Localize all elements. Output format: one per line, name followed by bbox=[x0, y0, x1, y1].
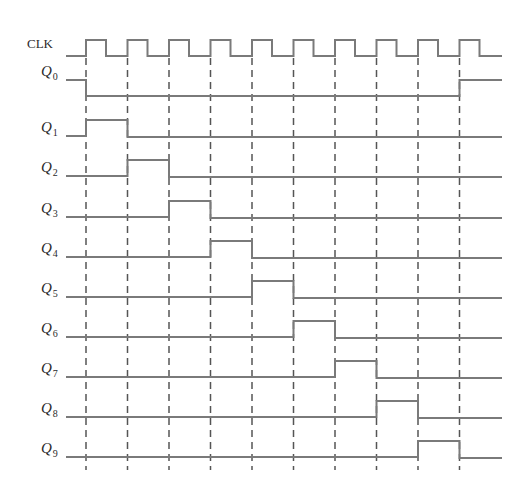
signal-labels: CLKQ0Q1Q2Q3Q4Q5Q6Q7Q8Q9 bbox=[27, 36, 58, 459]
q1-label: Q1 bbox=[41, 119, 58, 138]
clk-waveform bbox=[66, 40, 502, 56]
timing-diagram: CLKQ0Q1Q2Q3Q4Q5Q6Q7Q8Q9 bbox=[0, 0, 529, 480]
q6-waveform bbox=[66, 321, 502, 338]
q9-waveform bbox=[66, 441, 502, 458]
clock-edge-guides bbox=[86, 58, 460, 470]
q1-waveform bbox=[66, 120, 502, 137]
q0-waveform bbox=[66, 80, 502, 96]
q6-label: Q6 bbox=[41, 320, 58, 339]
timing-diagram-canvas: CLKQ0Q1Q2Q3Q4Q5Q6Q7Q8Q9 bbox=[0, 0, 529, 480]
q7-waveform bbox=[66, 361, 502, 378]
q5-label: Q5 bbox=[41, 280, 58, 299]
q9-label: Q9 bbox=[41, 440, 58, 459]
q2-label: Q2 bbox=[41, 159, 58, 178]
q4-label: Q4 bbox=[41, 240, 58, 259]
q3-waveform bbox=[66, 201, 502, 218]
waveforms bbox=[66, 40, 502, 458]
q5-waveform bbox=[66, 281, 502, 298]
clk-label: CLK bbox=[27, 36, 54, 51]
q7-label: Q7 bbox=[41, 360, 58, 379]
q0-label: Q0 bbox=[41, 63, 58, 82]
q8-waveform bbox=[66, 401, 502, 418]
q2-waveform bbox=[66, 160, 502, 177]
q3-label: Q3 bbox=[41, 200, 58, 219]
q4-waveform bbox=[66, 241, 502, 258]
q8-label: Q8 bbox=[41, 400, 58, 419]
